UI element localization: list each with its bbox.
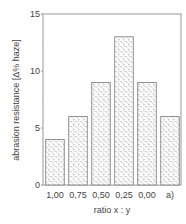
x-axis-label: ratio x : y	[94, 205, 131, 215]
y-axis-label: abrasion resistance [Δ% haze]	[11, 39, 21, 161]
x-axis: 1,000,750,500,250,00a)	[46, 190, 174, 200]
y-tick-label: 0	[35, 180, 40, 190]
x-tick-label: 1,00	[46, 190, 64, 200]
x-tick-label: 0,00	[138, 190, 156, 200]
bar-050	[92, 82, 111, 185]
bars	[46, 37, 180, 185]
bar-025	[115, 37, 134, 185]
x-tick-label: 0,25	[115, 190, 133, 200]
x-tick-label: 0,50	[92, 190, 110, 200]
x-tick-label: a)	[166, 190, 174, 200]
y-tick-label: 15	[30, 9, 40, 19]
bar-chart: 051015 1,000,750,500,250,00a) ratio x : …	[0, 0, 186, 224]
y-axis: 051015	[30, 9, 43, 190]
bar-075	[69, 117, 88, 185]
bar-a	[161, 117, 180, 185]
y-tick-label: 5	[35, 123, 40, 133]
y-tick-label: 10	[30, 66, 40, 76]
bar-100	[46, 139, 65, 185]
x-tick-label: 0,75	[69, 190, 87, 200]
bar-000	[138, 82, 157, 185]
